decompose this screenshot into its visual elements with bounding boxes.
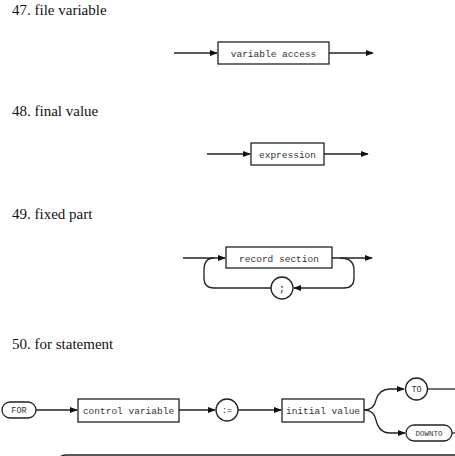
diagram-for-statement: FOR control variable := initial value TO… xyxy=(2,378,455,456)
diagram-final-value: expression xyxy=(207,143,368,165)
label-expression: expression xyxy=(259,150,316,161)
syntax-diagrams: variable access expression record sectio… xyxy=(0,0,455,456)
label-to: TO xyxy=(411,385,421,395)
label-assign: := xyxy=(222,406,232,416)
label-control-variable: control variable xyxy=(83,406,175,417)
diagram-fixed-part: record section ; xyxy=(183,247,372,299)
label-for: FOR xyxy=(11,406,26,416)
diagram-file-variable: variable access xyxy=(174,42,373,64)
label-initial-value: initial value xyxy=(286,406,360,417)
label-record-section: record section xyxy=(239,254,319,265)
label-variable-access: variable access xyxy=(231,49,317,60)
label-semicolon: ; xyxy=(279,283,286,295)
label-downto: DOWNTO xyxy=(415,430,443,438)
